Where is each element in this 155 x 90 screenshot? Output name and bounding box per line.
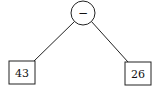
left-leaf-node: 43 xyxy=(9,61,35,84)
root-node: − xyxy=(71,1,95,25)
root-operator: − xyxy=(78,6,88,20)
right-leaf-node: 26 xyxy=(125,62,151,85)
right-leaf-value: 26 xyxy=(131,68,145,81)
edge-left xyxy=(33,21,75,62)
left-leaf-value: 43 xyxy=(15,67,29,80)
expression-tree-diagram: − 43 26 xyxy=(0,0,155,90)
edge-right xyxy=(91,21,128,62)
